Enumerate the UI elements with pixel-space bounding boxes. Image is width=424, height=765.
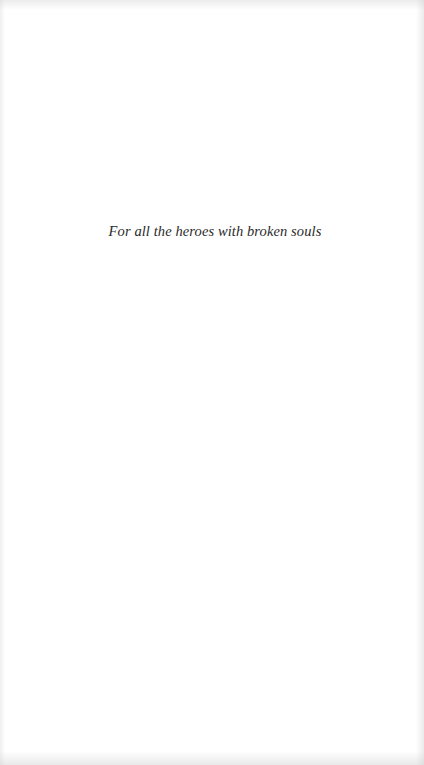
- dedication-text: For all the heroes with broken souls: [0, 221, 424, 241]
- scan-edge-right: [416, 0, 424, 765]
- scan-edge-top: [0, 0, 424, 10]
- scan-edge-left: [0, 0, 5, 765]
- scan-edge-bottom: [0, 751, 424, 765]
- book-page: For all the heroes with broken souls: [0, 0, 424, 765]
